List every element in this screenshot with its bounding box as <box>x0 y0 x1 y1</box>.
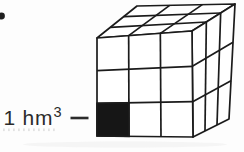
volume-label: 1 hm3 <box>4 104 63 129</box>
shaded-unit-cube <box>97 103 129 137</box>
volume-label-exponent: 3 <box>53 104 62 120</box>
cube-front-grid-line <box>160 33 161 136</box>
bullet-icon <box>0 13 5 20</box>
cube-3x3x3 <box>97 4 235 137</box>
volume-label-text: 1 hm <box>4 106 54 129</box>
figure: 1 hm3 <box>0 0 244 152</box>
scan-smudge <box>23 142 227 148</box>
unit-cube-volume-figure: 1 hm3 <box>0 0 244 152</box>
